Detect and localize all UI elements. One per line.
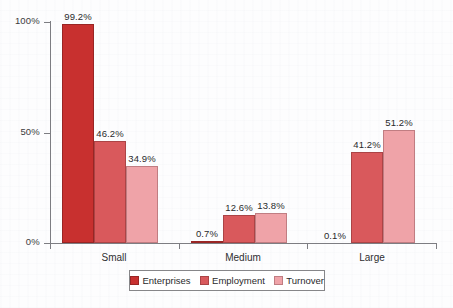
x-axis-label-medium: Medium bbox=[198, 252, 288, 263]
x-axis-line bbox=[50, 243, 436, 244]
bar-medium-turnover bbox=[255, 213, 287, 243]
legend-item-turnover: Turnover bbox=[274, 275, 324, 286]
value-label-large-turnover: 51.2% bbox=[375, 117, 423, 128]
y-axis-label-0pct: 0% bbox=[26, 236, 40, 247]
x-axis-tick-0 bbox=[50, 243, 51, 249]
value-label-small-turnover: 34.9% bbox=[118, 153, 166, 164]
figure-caption-clipped bbox=[6, 301, 446, 308]
legend-label-employment: Employment bbox=[212, 275, 265, 286]
y-axis-tick-50 bbox=[44, 133, 51, 134]
x-axis-tick-2 bbox=[307, 243, 308, 249]
legend-swatch-employment-icon bbox=[200, 276, 209, 285]
value-label-medium-turnover: 13.8% bbox=[247, 200, 295, 211]
bar-large-employment bbox=[351, 152, 383, 243]
bar-chart-plot-area: 0%50%100% 99.2%46.2%34.9%0.7%12.6%13.8%0… bbox=[0, 0, 453, 308]
chart-legend: Enterprises Employment Turnover bbox=[129, 270, 325, 291]
value-label-small-employment: 46.2% bbox=[86, 128, 134, 139]
legend-item-employment: Employment bbox=[200, 275, 265, 286]
chart-page: 0%50%100% 99.2%46.2%34.9%0.7%12.6%13.8%0… bbox=[0, 0, 453, 308]
legend-label-turnover: Turnover bbox=[286, 275, 324, 286]
bar-medium-enterprises bbox=[191, 241, 223, 243]
x-axis-tick-1 bbox=[179, 243, 180, 249]
bar-small-turnover bbox=[126, 166, 158, 243]
bar-medium-employment bbox=[223, 215, 255, 243]
y-axis-tick-100 bbox=[44, 22, 51, 23]
x-axis-label-small: Small bbox=[69, 252, 159, 263]
y-axis-label-100pct: 100% bbox=[15, 15, 40, 26]
value-label-small-enterprises: 99.2% bbox=[54, 11, 102, 22]
x-axis-tick-3 bbox=[436, 243, 437, 249]
legend-swatch-enterprises-icon bbox=[130, 276, 139, 285]
x-axis-label-large: Large bbox=[327, 252, 417, 263]
legend-swatch-turnover-icon bbox=[274, 276, 283, 285]
legend-label-enterprises: Enterprises bbox=[142, 275, 190, 286]
y-axis-label-50pct: 50% bbox=[20, 126, 40, 137]
bar-large-turnover bbox=[383, 130, 415, 243]
legend-item-enterprises: Enterprises bbox=[130, 275, 191, 286]
